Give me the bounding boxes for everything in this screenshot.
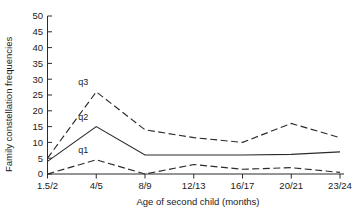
x-tick-label: 4/5 (90, 180, 103, 191)
series-label-q1: q1 (78, 145, 88, 155)
series-line-q2 (48, 127, 341, 162)
y-axis-ticks: 05101520253035404550 (32, 10, 52, 179)
y-tick-label: 15 (32, 121, 43, 132)
y-tick-label: 50 (32, 10, 43, 21)
series-label-q2: q2 (78, 112, 88, 122)
y-tick-label: 40 (32, 42, 43, 53)
x-tick-label: 1.5/2 (37, 180, 58, 191)
y-tick-label: 10 (32, 137, 43, 148)
x-tick-label: 23/24 (328, 180, 352, 191)
x-axis-ticks: 1.5/24/58/912/1316/1720/2123/24 (37, 174, 352, 191)
line-chart: Family constellation frequencies Age of … (0, 0, 355, 211)
x-tick-label: 20/21 (279, 180, 303, 191)
series-line-q1 (48, 160, 341, 174)
y-tick-label: 30 (32, 74, 43, 85)
x-tick-label: 16/17 (231, 180, 255, 191)
y-tick-label: 25 (32, 89, 43, 100)
y-tick-label: 20 (32, 105, 43, 116)
series-inline-labels: q3q2q1 (78, 77, 88, 155)
series-group (48, 92, 341, 174)
chart-container: Family constellation frequencies Age of … (0, 0, 355, 211)
x-axis-title: Age of second child (months) (136, 196, 259, 207)
series-label-q3: q3 (78, 77, 88, 87)
y-tick-label: 35 (32, 58, 43, 69)
x-tick-label: 8/9 (138, 180, 151, 191)
y-tick-label: 45 (32, 26, 43, 37)
x-tick-label: 12/13 (182, 180, 206, 191)
series-line-q3 (48, 92, 341, 158)
y-tick-label: 0 (38, 168, 43, 179)
y-tick-label: 5 (38, 153, 43, 164)
y-axis-title: Family constellation frequencies (3, 37, 14, 172)
